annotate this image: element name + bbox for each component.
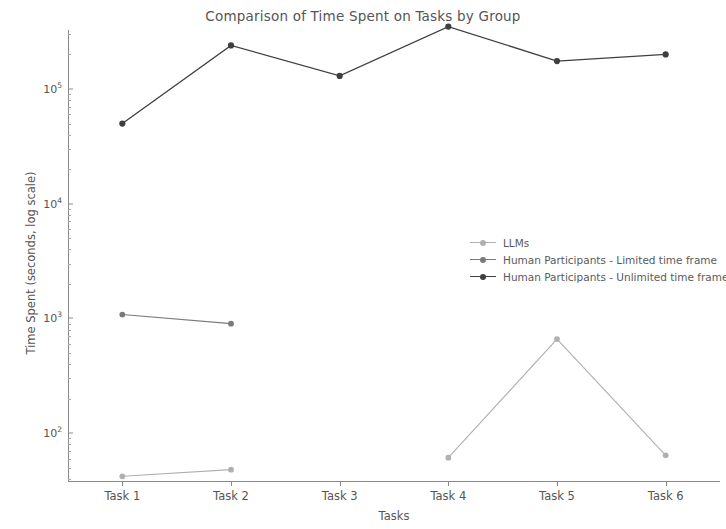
data-point — [228, 467, 234, 473]
legend-item[interactable]: Human Participants - Limited time frame — [470, 251, 726, 268]
legend-label: LLMs — [503, 237, 529, 249]
data-point — [445, 455, 451, 461]
data-point — [554, 58, 560, 64]
chart-container: Comparison of Time Spent on Tasks by Gro… — [0, 0, 726, 529]
data-point — [554, 336, 560, 342]
data-point — [119, 312, 125, 318]
data-point — [228, 42, 234, 48]
legend-swatch-icon — [470, 237, 496, 249]
legend-item[interactable]: LLMs — [470, 234, 726, 251]
series-2 — [119, 23, 669, 126]
series-0 — [119, 336, 668, 479]
legend-swatch-icon — [470, 271, 496, 283]
data-point — [337, 73, 343, 79]
legend-label: Human Participants - Unlimited time fram… — [503, 271, 726, 283]
data-point — [228, 321, 234, 327]
series-line — [122, 470, 231, 477]
series-line — [122, 27, 665, 124]
legend-label: Human Participants - Limited time frame — [503, 254, 717, 266]
legend-item[interactable]: Human Participants - Unlimited time fram… — [470, 268, 726, 285]
series-1 — [119, 312, 233, 327]
legend-swatch-icon — [470, 254, 496, 266]
data-point — [445, 23, 451, 29]
data-point — [119, 473, 125, 479]
data-point — [663, 51, 669, 57]
data-point — [119, 120, 125, 126]
data-point — [663, 452, 669, 458]
chart-legend: LLMsHuman Participants - Limited time fr… — [470, 234, 726, 285]
series-line — [122, 315, 231, 324]
series-line — [448, 339, 665, 458]
